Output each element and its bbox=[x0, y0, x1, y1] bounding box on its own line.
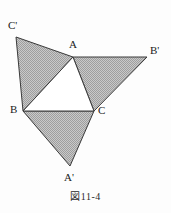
vertex-label-b: B bbox=[10, 104, 17, 115]
shaded-triangle-bottom bbox=[23, 111, 94, 166]
vertex-label-a: A bbox=[69, 39, 77, 50]
vertex-label-a-prime: A' bbox=[64, 172, 74, 183]
figure-caption: 図11-4 bbox=[0, 191, 171, 203]
geometry-canvas bbox=[0, 0, 171, 213]
vertex-label-c: C bbox=[98, 105, 105, 116]
vertex-label-c-prime: C' bbox=[8, 20, 17, 31]
figure-container: A B C A' B' C' 図11-4 bbox=[0, 0, 171, 213]
vertex-label-b-prime: B' bbox=[150, 45, 159, 56]
